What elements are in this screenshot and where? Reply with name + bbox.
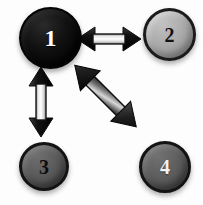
diagram-canvas: 1 2 3 4 <box>0 0 203 205</box>
node-3-label: 3 <box>39 157 49 177</box>
node-2-label: 2 <box>165 25 175 45</box>
node-2[interactable]: 2 <box>143 8 196 61</box>
node-3[interactable]: 3 <box>19 142 69 191</box>
connector-arrow-node1-node3[interactable] <box>27 66 55 138</box>
node-4[interactable]: 4 <box>139 141 191 193</box>
node-1-label: 1 <box>45 26 57 50</box>
node-4-label: 4 <box>160 157 170 177</box>
connector-arrow-node1-node4[interactable] <box>58 48 153 144</box>
node-1[interactable]: 1 <box>19 7 82 69</box>
